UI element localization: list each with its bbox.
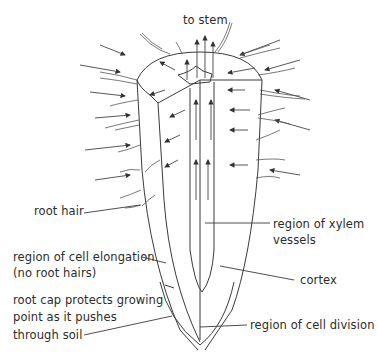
label-cap-line3: through soil	[13, 328, 82, 343]
label-root-hair: root hair	[34, 204, 84, 219]
label-cap-line2: point as it pushes	[13, 310, 117, 325]
xylem-core	[190, 82, 214, 292]
label-xylem-line2: vessels	[273, 233, 316, 248]
label-xylem-line1: region of xylem	[273, 217, 364, 232]
label-cap-line1: root cap protects growing	[13, 293, 163, 308]
label-elongation-line2: (no root hairs)	[13, 266, 96, 281]
root-top-surface	[137, 52, 262, 80]
label-cortex: cortex	[300, 273, 337, 288]
label-to-stem: to stem	[183, 13, 228, 28]
root-outer-left	[137, 80, 198, 350]
label-elongation-line1: region of cell elongation	[13, 250, 155, 265]
label-cell-division: region of cell division	[250, 318, 375, 333]
